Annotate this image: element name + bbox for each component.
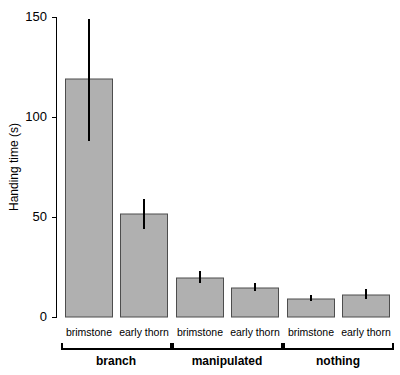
chart-canvas: 150 100 50 0 Handing time (s) brimst — [0, 0, 400, 375]
bar-nothing-brimstone — [288, 299, 335, 317]
category-label-6: early thorn — [341, 326, 391, 338]
bar-branch-early-thorn — [121, 214, 168, 317]
y-axis-title: Handing time (s) — [7, 123, 21, 211]
bar-chart-figure: 150 100 50 0 Handing time (s) brimst — [0, 0, 400, 375]
group-label-nothing: nothing — [316, 354, 360, 368]
y-tick-label-150: 150 — [25, 9, 47, 24]
group-label-branch: branch — [96, 354, 136, 368]
group-bracket-nothing — [284, 343, 393, 349]
category-label-3: brimstone — [177, 326, 223, 338]
bar-manipulated-brimstone — [177, 278, 224, 317]
group-bracket-manipulated — [173, 343, 282, 349]
group-label-manipulated: manipulated — [192, 354, 263, 368]
y-tick-label-50: 50 — [33, 209, 47, 224]
category-label-1: brimstone — [66, 326, 112, 338]
bar-manipulated-early-thorn — [232, 288, 279, 317]
category-label-4: early thorn — [230, 326, 280, 338]
category-label-5: brimstone — [288, 326, 334, 338]
group-bracket-branch — [62, 343, 171, 349]
y-tick-label-0: 0 — [40, 309, 47, 324]
y-tick-label-100: 100 — [25, 109, 47, 124]
category-label-2: early thorn — [119, 326, 169, 338]
